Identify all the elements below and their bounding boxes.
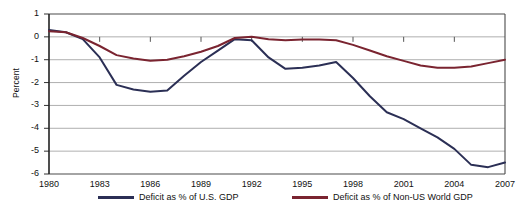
legend-label-non-us-world-gdp: Deficit as % of Non-US World GDP — [333, 192, 473, 202]
gridlines-group — [44, 14, 505, 174]
y-tick-label: -4 — [17, 122, 39, 132]
x-tick-label: 2004 — [434, 179, 474, 189]
series-lines-group — [49, 30, 505, 167]
x-tick-label: 2007 — [485, 179, 518, 189]
chart-container: Percent 10-1-2-3-4-5-6 19801983198619891… — [0, 0, 518, 210]
x-tick-label: 1986 — [130, 179, 170, 189]
x-tick-label: 1980 — [29, 179, 69, 189]
legend-swatch-us-gdp — [98, 196, 134, 199]
y-tick-label: -6 — [17, 168, 39, 178]
legend-swatch-non-us-world-gdp — [292, 196, 328, 199]
y-tick-label: -3 — [17, 99, 39, 109]
chart-legend: Deficit as % of U.S. GDP Deficit as % of… — [0, 189, 518, 207]
legend-label-us-gdp: Deficit as % of U.S. GDP — [139, 192, 239, 202]
legend-item-us-gdp: Deficit as % of U.S. GDP — [98, 189, 239, 205]
x-tick-label: 1995 — [282, 179, 322, 189]
y-tick-label: 1 — [17, 8, 39, 18]
y-tick-label: -1 — [17, 54, 39, 64]
x-tick-label: 2001 — [384, 179, 424, 189]
x-tick-label: 1989 — [181, 179, 221, 189]
y-tick-label: -2 — [17, 77, 39, 87]
y-tick-label: -5 — [17, 145, 39, 155]
x-tick-label: 1998 — [333, 179, 373, 189]
x-tick-label: 1992 — [232, 179, 272, 189]
plot-frame — [49, 14, 505, 174]
x-tick-label: 1983 — [80, 179, 120, 189]
y-tick-label: 0 — [17, 31, 39, 41]
legend-item-non-us-world-gdp: Deficit as % of Non-US World GDP — [292, 189, 473, 205]
